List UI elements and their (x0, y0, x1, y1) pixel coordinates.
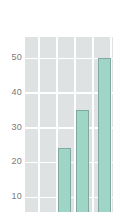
bar-2 (76, 110, 89, 212)
gridline-vertical-1 (38, 37, 40, 212)
plot-area (25, 37, 113, 212)
y-tick-label-30: 30 (0, 123, 22, 132)
y-tick-label-40: 40 (0, 88, 22, 97)
gridline-vertical-4 (92, 37, 94, 212)
y-axis-labels: 50 40 30 20 10 (0, 0, 22, 212)
y-tick-label-50: 50 (0, 53, 22, 62)
y-tick-label-20: 20 (0, 157, 22, 166)
bar-1 (58, 148, 71, 212)
bar-chart: 50 40 30 20 10 (0, 0, 123, 212)
bar-3 (98, 58, 111, 213)
y-tick-label-10: 10 (0, 192, 22, 201)
